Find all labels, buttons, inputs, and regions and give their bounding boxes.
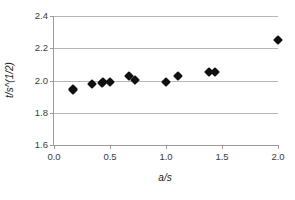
y-axis-title: t/s^(1/2) [4, 62, 15, 98]
x-tick-mark [166, 145, 167, 149]
data-point [105, 77, 115, 87]
y-tick-label: 2.2 [35, 44, 48, 54]
gridline-y [54, 113, 278, 114]
data-point [173, 71, 183, 81]
y-tick-label: 2.4 [35, 11, 48, 21]
x-axis-title: a/s [53, 172, 277, 183]
x-tick-label: 0.0 [47, 152, 60, 162]
data-point [210, 67, 220, 77]
x-tick-mark [110, 145, 111, 149]
x-tick-label: 1.0 [159, 152, 172, 162]
data-point [161, 77, 171, 87]
y-tick-label: 2.0 [35, 76, 48, 86]
x-tick-label: 1.5 [215, 152, 228, 162]
x-tick-label: 2.0 [271, 152, 284, 162]
y-tick-mark [50, 113, 54, 114]
y-tick-mark [50, 48, 54, 49]
gridline-y [54, 48, 278, 49]
x-tick-mark [222, 145, 223, 149]
x-tick-mark [54, 145, 55, 149]
scatter-chart-figure: 1.61.82.02.22.40.00.51.01.52.0 t/s^(1/2)… [0, 0, 295, 200]
y-tick-mark [50, 81, 54, 82]
x-tick-label: 0.5 [103, 152, 116, 162]
y-tick-label: 1.6 [35, 140, 48, 150]
data-point [273, 35, 283, 45]
gridline-y [54, 16, 278, 17]
y-tick-label: 1.8 [35, 108, 48, 118]
x-tick-mark [278, 145, 279, 149]
y-tick-mark [50, 16, 54, 17]
plot-area: 1.61.82.02.22.40.00.51.01.52.0 [53, 16, 278, 145]
